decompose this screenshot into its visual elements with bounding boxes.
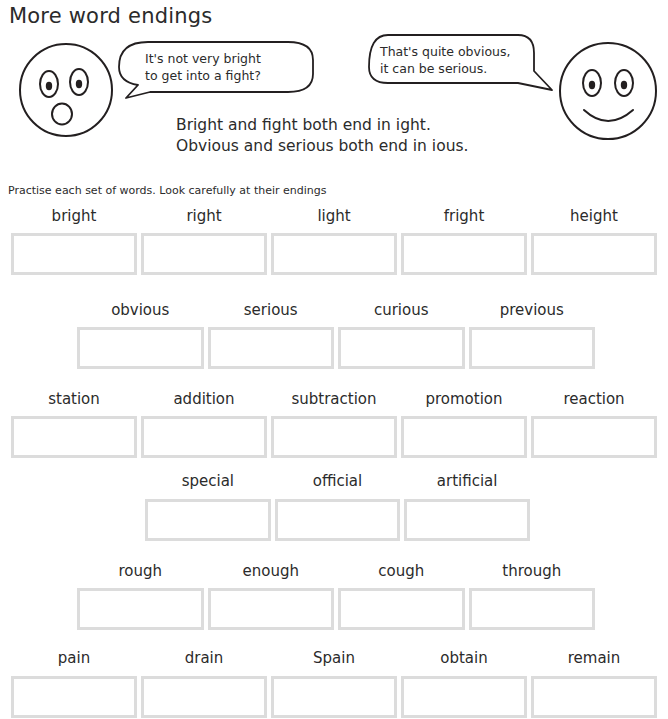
word-label: right (141, 206, 267, 226)
rule-statement: Bright and fight both end in ight. Obvio… (176, 115, 468, 157)
word-label: station (11, 389, 137, 409)
writing-box[interactable] (338, 327, 465, 369)
word-label-group: brightrightlightfrightheight (11, 206, 657, 226)
word-label: light (271, 206, 397, 226)
writing-box-group (145, 499, 530, 541)
speech-bubble-left-text: It's not very bright to get into a fight… (145, 50, 261, 84)
word-label: previous (469, 300, 596, 320)
word-label: addition (141, 389, 267, 409)
speech-line: It's not very bright (145, 50, 261, 67)
writing-box[interactable] (401, 676, 527, 718)
writing-box[interactable] (145, 499, 271, 541)
writing-box-group (11, 233, 657, 275)
speech-line: it can be serious. (380, 60, 510, 77)
word-label: artificial (404, 471, 530, 491)
writing-box[interactable] (401, 416, 527, 458)
word-label: obtain (401, 648, 527, 668)
word-label: enough (208, 561, 335, 581)
rule-line-1: Bright and fight both end in ight. (176, 115, 468, 136)
writing-box[interactable] (469, 327, 596, 369)
writing-box[interactable] (275, 499, 401, 541)
word-label: remain (531, 648, 657, 668)
page-title: More word endings (9, 4, 212, 28)
writing-box[interactable] (531, 416, 657, 458)
writing-box[interactable] (77, 588, 204, 630)
word-label: cough (338, 561, 465, 581)
word-label: special (145, 471, 271, 491)
writing-box[interactable] (11, 233, 137, 275)
word-label: curious (338, 300, 465, 320)
word-label-group: paindrainSpainobtainremain (11, 648, 657, 668)
speech-line: to get into a fight? (145, 67, 261, 84)
word-label: official (275, 471, 401, 491)
writing-box-group (11, 416, 657, 458)
writing-box[interactable] (531, 233, 657, 275)
word-label: obvious (77, 300, 204, 320)
word-label: serious (208, 300, 335, 320)
instruction-text: Practise each set of words. Look careful… (8, 184, 327, 197)
surprised-face-icon (16, 38, 116, 146)
writing-box-group (77, 588, 595, 630)
writing-box[interactable] (469, 588, 596, 630)
writing-box[interactable] (338, 588, 465, 630)
writing-box-group (77, 327, 595, 369)
writing-box[interactable] (208, 588, 335, 630)
writing-box[interactable] (77, 327, 204, 369)
writing-box[interactable] (208, 327, 335, 369)
word-label: height (531, 206, 657, 226)
word-label: bright (11, 206, 137, 226)
writing-box[interactable] (11, 676, 137, 718)
word-label: drain (141, 648, 267, 668)
word-label: subtraction (271, 389, 397, 409)
word-label-group: stationadditionsubtractionpromotionreact… (11, 389, 657, 409)
rule-line-2: Obvious and serious both end in ious. (176, 136, 468, 157)
writing-box[interactable] (141, 416, 267, 458)
word-label-group: roughenoughcoughthrough (77, 561, 595, 581)
smiling-face-icon (556, 36, 660, 150)
word-label-group: specialofficialartificial (145, 471, 530, 491)
word-label: reaction (531, 389, 657, 409)
word-label: rough (77, 561, 204, 581)
word-label-group: obviousseriouscuriousprevious (77, 300, 595, 320)
word-label: through (469, 561, 596, 581)
word-label: pain (11, 648, 137, 668)
writing-box[interactable] (271, 676, 397, 718)
word-label: fright (401, 206, 527, 226)
writing-box[interactable] (141, 233, 267, 275)
writing-box[interactable] (141, 676, 267, 718)
writing-box[interactable] (11, 416, 137, 458)
writing-box[interactable] (404, 499, 530, 541)
word-label: promotion (401, 389, 527, 409)
writing-box-group (11, 676, 657, 718)
speech-bubble-right-text: That's quite obvious, it can be serious. (380, 43, 510, 77)
writing-box[interactable] (271, 416, 397, 458)
writing-box[interactable] (531, 676, 657, 718)
speech-line: That's quite obvious, (380, 43, 510, 60)
word-label: Spain (271, 648, 397, 668)
writing-box[interactable] (271, 233, 397, 275)
writing-box[interactable] (401, 233, 527, 275)
